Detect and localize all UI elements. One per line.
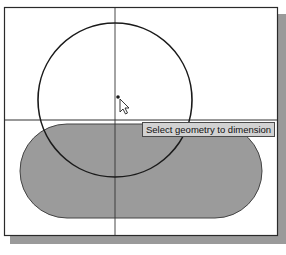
tooltip-text: Select geometry to dimension (146, 124, 271, 135)
sketch-point[interactable] (116, 95, 120, 99)
viewport-shadow (10, 236, 286, 244)
viewport-shadow-right (278, 14, 286, 244)
tooltip: Select geometry to dimension (142, 122, 275, 137)
slot-profile[interactable] (20, 124, 262, 218)
